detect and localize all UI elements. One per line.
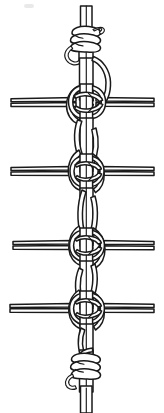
paper-smudge <box>24 4 34 8</box>
rope-lashing-figure: Ratline lashing on a vertical rope .ln {… <box>0 0 164 413</box>
rope-illustration-svg: .ln { fill:none; stroke:#1a1a1a; stroke-… <box>0 0 164 413</box>
